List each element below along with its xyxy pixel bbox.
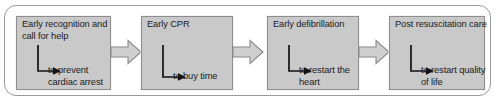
stage-box-early-recognition[interactable]: Early recognition and call for help to p… (16, 16, 111, 90)
stage-outcome: to restart quality of life (421, 65, 489, 88)
stage-box-post-resuscitation-care[interactable]: Post resuscitation care to restart quali… (389, 16, 485, 90)
chain-of-survival-diagram: Early recognition and call for help to p… (0, 0, 499, 107)
stage-title: Early defibrillation (273, 19, 365, 31)
stage-outcome: to buy time (173, 71, 235, 83)
stage-title: Post resuscitation care (395, 19, 487, 31)
stage-title: Early CPR (147, 19, 239, 31)
stage-title: Early recognition and call for help (22, 19, 114, 42)
stage-outcome: to restart the heart (299, 65, 361, 88)
stage-box-early-cpr[interactable]: Early CPR to buy time (141, 16, 233, 90)
stage-outcome: to prevent cardiac arrest (48, 65, 114, 88)
stage-box-early-defibrillation[interactable]: Early defibrillation to restart the hear… (267, 16, 359, 90)
